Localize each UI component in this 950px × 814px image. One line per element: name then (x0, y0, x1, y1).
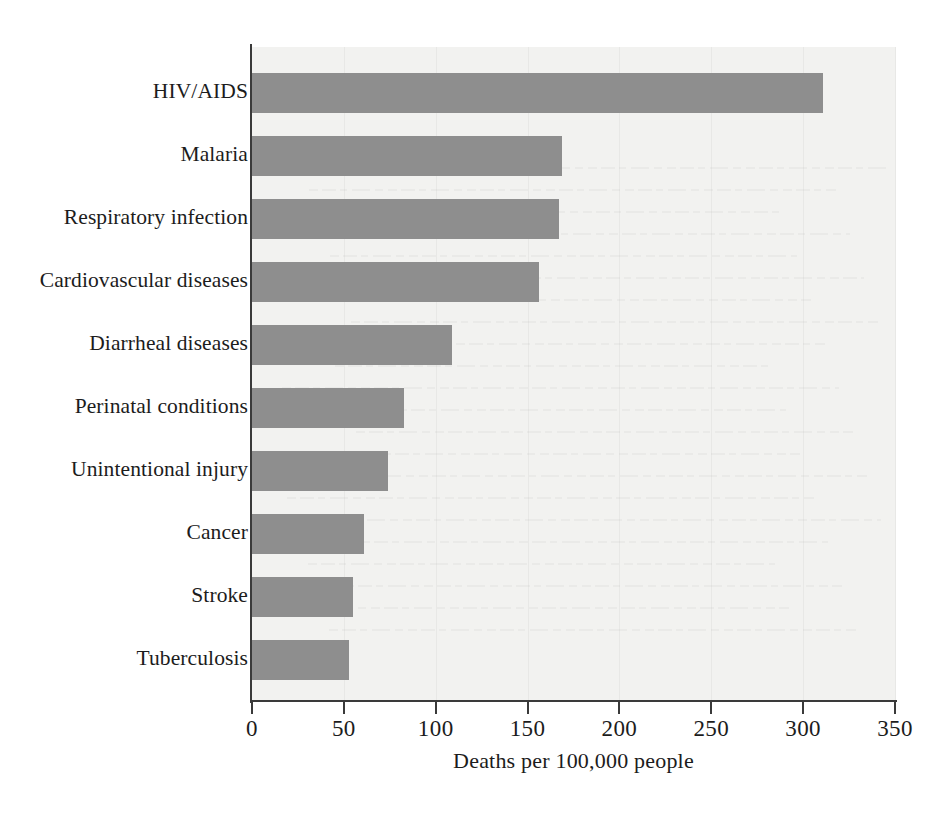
bar (252, 451, 388, 491)
bar (252, 262, 539, 302)
x-axis-tick (527, 702, 529, 714)
x-axis-tick-label: 300 (785, 716, 821, 742)
plot-area (252, 47, 895, 700)
gridline (895, 47, 896, 700)
bar (252, 514, 364, 554)
y-axis-category-label: Unintentional injury (71, 457, 248, 482)
x-axis-tick-label: 150 (510, 716, 546, 742)
x-axis-tick-label: 250 (693, 716, 729, 742)
x-axis-tick-label: 350 (877, 716, 913, 742)
bar (252, 577, 353, 617)
y-axis-category-label: Cardiovascular diseases (40, 268, 248, 293)
y-axis-category-label: Cancer (187, 520, 248, 545)
x-axis-line (250, 700, 897, 702)
x-axis-tick (618, 702, 620, 714)
bar (252, 199, 559, 239)
x-axis-title: Deaths per 100,000 people (252, 748, 895, 774)
x-axis-tick (710, 702, 712, 714)
x-axis-tick (894, 702, 896, 714)
y-axis-category-label: Stroke (191, 583, 248, 608)
y-axis-category-label: Perinatal conditions (75, 394, 248, 419)
x-axis-tick (251, 702, 253, 714)
x-axis-tick (435, 702, 437, 714)
y-axis-category-label: Diarrheal diseases (89, 331, 248, 356)
x-axis-tick (802, 702, 804, 714)
x-axis-tick-label: 50 (332, 716, 356, 742)
bar (252, 136, 562, 176)
y-axis-category-label: Respiratory infection (64, 205, 248, 230)
bar (252, 73, 823, 113)
x-axis-tick (343, 702, 345, 714)
y-axis-category-label: Malaria (180, 142, 248, 167)
bar-series (252, 47, 895, 700)
x-axis-tick-label: 100 (418, 716, 454, 742)
bar (252, 325, 452, 365)
bar (252, 388, 404, 428)
y-axis-line (250, 44, 252, 703)
y-axis-category-label: HIV/AIDS (153, 79, 248, 104)
bar (252, 640, 349, 680)
bar-chart-figure: 050100150200250300350 HIV/AIDSMalariaRes… (0, 0, 950, 814)
y-axis-category-label: Tuberculosis (136, 646, 248, 671)
x-axis-tick-label: 0 (246, 716, 258, 742)
x-axis-tick-label: 200 (602, 716, 638, 742)
